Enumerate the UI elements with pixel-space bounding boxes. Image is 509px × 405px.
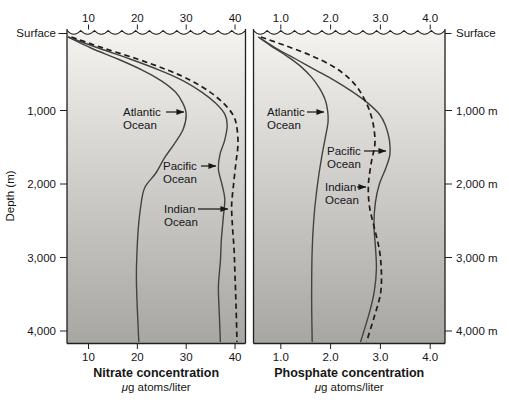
top-axis-tick-label: 1.0: [273, 12, 289, 24]
top-axis-tick-label: 30: [180, 12, 193, 24]
depth-tick-label-left: 2,000: [27, 178, 56, 190]
annotation-text: Ocean: [123, 119, 157, 131]
annotation-text: Indian: [325, 181, 356, 193]
top-axis-tick-label: 10: [82, 12, 95, 24]
annotation-text: Indian: [164, 203, 195, 215]
bottom-axis-tick-label: 30: [180, 351, 193, 363]
annotation-text: Ocean: [327, 158, 361, 170]
top-axis-tick-label: 3.0: [372, 12, 388, 24]
bottom-axis-tick-label: 2.0: [323, 351, 339, 363]
depth-tick-label-right: 4,000 m: [456, 325, 498, 337]
annotation-text: Pacific: [163, 160, 197, 172]
annotation-text: Ocean: [164, 216, 198, 228]
annotation-text: Atlantic: [123, 106, 161, 118]
bottom-axis-tick-label: 1.0: [273, 351, 289, 363]
annotation-text: Ocean: [325, 194, 359, 206]
depth-tick-label-left: 4,000: [27, 325, 56, 337]
depth-tick-label-left: 1,000: [27, 105, 56, 117]
surface-label-right: Surface: [456, 27, 496, 39]
top-axis-tick-label: 40: [229, 12, 242, 24]
panel-right-phosphate-concentration: μg atoms/literAtlanticOceanPacificOceanI…: [254, 25, 453, 393]
panel-left-nitrate-concentration: μg atoms/literAtlanticOceanPacificOceanI…: [59, 25, 246, 393]
x-axis-title: Nitrate concentration: [93, 366, 219, 380]
x-axis-units: μg atoms/liter: [314, 381, 384, 393]
bottom-axis-tick-label: 10: [82, 351, 95, 363]
depth-tick-label-right: 2,000 m: [456, 178, 498, 190]
depth-tick-label-right: 3,000 m: [456, 252, 498, 264]
bottom-axis-tick-label: 40: [229, 351, 242, 363]
surface-label-left: Surface: [16, 27, 56, 39]
annotation-text: Ocean: [163, 173, 197, 185]
depth-tick-label-right: 1,000 m: [456, 105, 498, 117]
bottom-axis-tick-label: 4.0: [422, 351, 438, 363]
top-axis-tick-label: 4.0: [422, 12, 438, 24]
bottom-axis-tick-label: 3.0: [372, 351, 388, 363]
figure-container: μg atoms/literAtlanticOceanPacificOceanI…: [0, 0, 509, 405]
annotation-text: Atlantic: [267, 106, 305, 118]
bottom-axis-tick-label: 20: [131, 351, 144, 363]
y-axis-title: Depth (m): [4, 170, 16, 221]
annotation-text: Pacific: [327, 145, 361, 157]
annotation-text: Ocean: [267, 119, 301, 131]
x-axis-title: Phosphate concentration: [274, 366, 424, 380]
top-axis-tick-label: 20: [131, 12, 144, 24]
ocean-depth-profiles-figure: μg atoms/literAtlanticOceanPacificOceanI…: [0, 0, 509, 405]
top-axis-tick-label: 2.0: [323, 12, 339, 24]
x-axis-units: μg atoms/liter: [121, 381, 191, 393]
depth-tick-label-left: 3,000: [27, 252, 56, 264]
